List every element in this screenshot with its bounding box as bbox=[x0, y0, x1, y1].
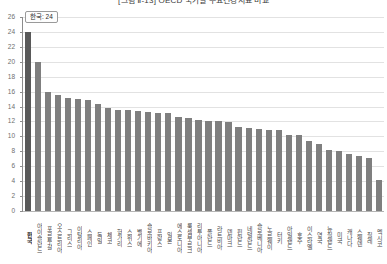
bar[interactable] bbox=[306, 141, 312, 211]
y-axis-tick-label: 22 bbox=[1, 44, 15, 51]
bar[interactable] bbox=[65, 98, 71, 211]
bar[interactable] bbox=[296, 135, 302, 211]
x-axis-label: 아일랜드 bbox=[283, 212, 293, 264]
plot-area: 02468101214161820222426 bbox=[22, 17, 383, 211]
bar[interactable] bbox=[165, 113, 171, 211]
bar[interactable] bbox=[75, 99, 81, 211]
x-axis-label: 스웨덴 bbox=[353, 212, 363, 264]
x-axis-label: 터키 bbox=[273, 212, 283, 264]
y-axis-tick-label: 18 bbox=[1, 74, 15, 81]
y-axis-tick-label: 24 bbox=[1, 29, 15, 36]
bar[interactable] bbox=[95, 104, 101, 211]
bar[interactable] bbox=[155, 113, 161, 211]
bar[interactable] bbox=[366, 158, 372, 211]
x-axis-label: 독일 bbox=[92, 212, 102, 264]
x-axis-label: 벨기에 bbox=[132, 212, 142, 264]
bar[interactable] bbox=[135, 111, 141, 211]
x-axis-label: 폴란드 bbox=[203, 212, 213, 264]
x-axis-label: 영국 bbox=[313, 212, 323, 264]
x-axis-label: 프랑스 bbox=[152, 212, 162, 264]
bar[interactable] bbox=[55, 95, 61, 211]
bar[interactable] bbox=[175, 117, 181, 211]
x-axis-label: 칠레 bbox=[363, 212, 373, 264]
x-axis-label: 네덜란드 bbox=[243, 212, 253, 264]
bar[interactable] bbox=[246, 128, 252, 211]
y-axis-tick-label: 26 bbox=[1, 14, 15, 21]
x-axis-label: 포르투갈 bbox=[42, 212, 52, 264]
x-axis-label: 스위스 bbox=[122, 212, 132, 264]
x-axis-label: 호주 bbox=[293, 212, 303, 264]
x-axis-label: 슬로베니아 bbox=[253, 212, 263, 264]
bar[interactable] bbox=[316, 144, 322, 211]
bar[interactable] bbox=[195, 120, 201, 211]
bar[interactable] bbox=[125, 110, 131, 211]
x-axis-label: 핀란드 bbox=[233, 212, 243, 264]
bar[interactable] bbox=[215, 121, 221, 211]
bar[interactable] bbox=[45, 92, 51, 211]
bar[interactable] bbox=[105, 108, 111, 211]
bar[interactable] bbox=[235, 127, 241, 211]
y-axis-tick-label: 14 bbox=[1, 104, 15, 111]
x-axis-label: 룩셈부르크 bbox=[182, 212, 192, 264]
y-axis-tick-label: 20 bbox=[1, 59, 15, 66]
x-axis-label: 노르웨이 bbox=[263, 212, 273, 264]
bar[interactable] bbox=[185, 118, 191, 211]
bar[interactable] bbox=[25, 32, 31, 211]
x-axis-label: 미국 bbox=[333, 212, 343, 264]
bar[interactable] bbox=[376, 180, 382, 211]
y-axis-tick-label: 0 bbox=[1, 208, 15, 215]
x-axis-labels: 한국아이슬란드포르투갈오스트리아그리스이탈리아스페인독일체코헝가리스위스벨기에슬… bbox=[22, 212, 383, 264]
x-axis-label: 뉴질랜드 bbox=[323, 212, 333, 264]
x-axis-label: 헝가리 bbox=[112, 212, 122, 264]
x-axis-label: 그리스 bbox=[62, 212, 72, 264]
bar[interactable] bbox=[225, 122, 231, 211]
y-axis-tick-label: 10 bbox=[1, 133, 15, 140]
bar[interactable] bbox=[266, 130, 272, 211]
x-axis-label: 라트비아 bbox=[213, 212, 223, 264]
bar[interactable] bbox=[356, 156, 362, 211]
x-axis-label: 슬로바키아 bbox=[142, 212, 152, 264]
y-axis-tick-label: 8 bbox=[1, 148, 15, 155]
bar[interactable] bbox=[336, 151, 342, 211]
bar[interactable] bbox=[35, 62, 41, 211]
bar[interactable] bbox=[326, 150, 332, 211]
x-axis-label: 스페인 bbox=[82, 212, 92, 264]
y-axis-tick-label: 12 bbox=[1, 118, 15, 125]
y-axis-tick-label: 2 bbox=[1, 193, 15, 200]
y-axis-tick-label: 4 bbox=[1, 178, 15, 185]
bar[interactable] bbox=[115, 110, 121, 211]
chart-title: [그림 Ⅱ-13] OECD 국가별 주요건강지표 비교 bbox=[0, 0, 387, 6]
x-axis-label: 덴마크 bbox=[223, 212, 233, 264]
bar[interactable] bbox=[145, 112, 151, 211]
bar[interactable] bbox=[85, 100, 91, 211]
bar-series bbox=[23, 17, 384, 211]
x-axis-label: 캐나다 bbox=[343, 212, 353, 264]
bar[interactable] bbox=[346, 154, 352, 211]
x-axis-label: 아이슬란드 bbox=[32, 212, 42, 264]
x-axis-label: 이스라엘 bbox=[303, 212, 313, 264]
highlight-callout: 한국: 24 bbox=[25, 11, 58, 23]
x-axis-label: 이탈리아 bbox=[72, 212, 82, 264]
bar[interactable] bbox=[286, 135, 292, 211]
y-axis-tick-label: 16 bbox=[1, 89, 15, 96]
bar[interactable] bbox=[256, 129, 262, 211]
x-axis-label: 에스토니아 bbox=[172, 212, 182, 264]
x-axis-label: 체코 bbox=[102, 212, 112, 264]
x-axis-label: 일본 bbox=[162, 212, 172, 264]
x-axis-label: 리투아니아 bbox=[192, 212, 202, 264]
bar[interactable] bbox=[276, 130, 282, 211]
x-axis-label: 오스트리아 bbox=[52, 212, 62, 264]
x-axis-label: 한국 bbox=[22, 212, 32, 264]
x-axis-label: 멕시코 bbox=[373, 212, 383, 264]
bar[interactable] bbox=[205, 121, 211, 211]
bar-chart: [그림 Ⅱ-13] OECD 국가별 주요건강지표 비교 02468101214… bbox=[0, 0, 387, 264]
y-axis-tick-label: 6 bbox=[1, 163, 15, 170]
